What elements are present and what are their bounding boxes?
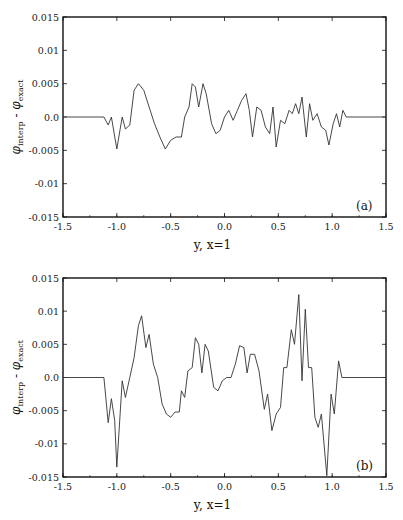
ylabel-minus: -	[9, 110, 23, 122]
ylabel-sub-exact: exact	[16, 79, 25, 101]
ylabel-sub-interp: interp	[16, 382, 25, 407]
x-tick-label: -1.5	[54, 221, 72, 232]
y-tick-label: -0.005	[29, 405, 59, 416]
y-tick-label: -0.015	[29, 212, 59, 223]
x-axis-title: y, x=1	[193, 498, 231, 512]
y-tick-label: 0.015	[32, 273, 59, 284]
x-tick-label: -1.0	[108, 481, 126, 492]
panel-a: -1.5-1.0-0.50.00.51.01.5 0.0150.010.0050…	[9, 12, 394, 253]
y-tick-label: -0.015	[29, 472, 59, 483]
y-tick-label: 0.0	[44, 112, 59, 123]
y-tick-label: 0.01	[38, 45, 59, 56]
x-tick-label: -0.5	[162, 481, 180, 492]
x-tick-label: 1.0	[325, 481, 340, 492]
x-tick-label: 0.5	[271, 481, 286, 492]
panel-tag: (a)	[356, 199, 373, 213]
y-tick-label: -0.01	[35, 178, 59, 189]
y-tick-labels: 0.0150.010.0050.0-0.005-0.01-0.015	[29, 12, 59, 223]
x-tick-label: -0.5	[162, 221, 180, 232]
x-tick-label: 0.5	[271, 221, 286, 232]
y-tick-label: 0.01	[38, 306, 59, 317]
x-tick-label: 1.5	[378, 481, 393, 492]
x-tick-label: -1.5	[54, 481, 72, 492]
x-tick-label: 1.0	[325, 221, 340, 232]
figure: -1.5-1.0-0.50.00.51.01.5 0.0150.010.0050…	[0, 0, 403, 520]
x-tick-label: 1.5	[378, 221, 393, 232]
x-tick-labels: -1.5-1.0-0.50.00.51.01.5	[54, 481, 394, 492]
y-tick-label: 0.0	[44, 372, 59, 383]
y-tick-label: 0.005	[32, 339, 59, 350]
panel-tag: (b)	[356, 459, 373, 473]
panel-b: -1.5-1.0-0.50.00.51.01.5 0.0150.010.0050…	[9, 273, 394, 513]
y-axis-title: φinterp - φexact	[9, 339, 25, 415]
y-axis-title: φinterp - φexact	[9, 79, 25, 155]
y-tick-label: -0.005	[29, 145, 59, 156]
x-tick-label: -1.0	[108, 221, 126, 232]
ylabel-sub-interp: interp	[16, 121, 25, 146]
error-line	[63, 84, 386, 149]
x-tick-label: 0.0	[217, 481, 232, 492]
x-tick-labels: -1.5-1.0-0.50.00.51.01.5	[54, 221, 394, 232]
ylabel-sub-exact: exact	[16, 339, 25, 361]
y-tick-labels: 0.0150.010.0050.0-0.005-0.01-0.015	[29, 273, 59, 483]
x-tick-label: 0.0	[217, 221, 232, 232]
x-axis-title: y, x=1	[193, 238, 231, 252]
y-tick-label: 0.015	[32, 12, 59, 23]
y-tick-label: -0.01	[35, 438, 59, 449]
error-line	[63, 295, 386, 476]
ylabel-minus: -	[9, 370, 23, 382]
y-tick-label: 0.005	[32, 78, 59, 89]
